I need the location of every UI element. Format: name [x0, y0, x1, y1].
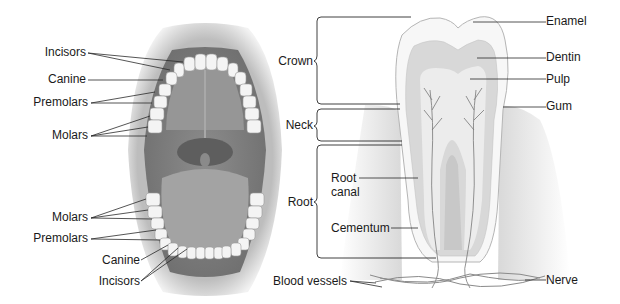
- label-nerve: Nerve: [546, 274, 578, 287]
- label-lower-incisors: Incisors: [99, 275, 140, 288]
- label-lower-canine: Canine: [102, 254, 140, 267]
- label-blood-vessels: Blood vessels: [273, 275, 347, 288]
- label-lower-premolars: Premolars: [33, 232, 88, 245]
- label-upper-canine: Canine: [48, 73, 86, 86]
- label-dentin: Dentin: [546, 51, 581, 64]
- diagram-stage: Incisors Canine Premolars Molars Molars …: [0, 0, 620, 304]
- label-upper-premolars: Premolars: [33, 96, 88, 109]
- label-neck: Neck: [286, 119, 313, 132]
- label-enamel: Enamel: [546, 15, 587, 28]
- gum-right: [498, 106, 570, 280]
- tooth-cross-section: [0, 0, 620, 304]
- label-gum: Gum: [546, 100, 572, 113]
- label-lower-molars: Molars: [52, 211, 88, 224]
- label-crown: Crown: [278, 55, 313, 68]
- label-cementum: Cementum: [331, 222, 390, 235]
- label-upper-molars: Molars: [52, 129, 88, 142]
- label-root-canal-line2: canal: [331, 186, 360, 199]
- label-upper-incisors: Incisors: [45, 46, 86, 59]
- label-root-canal-line1: Root: [331, 172, 356, 185]
- label-root: Root: [288, 196, 313, 209]
- label-pulp: Pulp: [546, 73, 570, 86]
